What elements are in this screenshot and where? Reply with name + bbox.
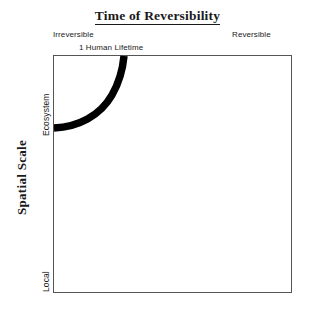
chart-title-text: Time of Reversibility [95,8,220,25]
y-axis-title: Spatial Scale [14,140,30,215]
x-axis-right-label: Reversible [232,30,271,39]
x-axis-left-label: Irreversible [53,30,94,39]
page-title: Time of Reversibility [0,8,315,24]
y-axis-tick-ecosystem: Ecosystem [41,94,51,136]
human-lifetime-annotation: 1 Human Lifetime [79,43,143,52]
reversibility-figure: Time of Reversibility Irreversible Rever… [0,0,315,313]
y-axis-tick-local: Local [41,271,51,292]
plot-area [53,55,292,293]
